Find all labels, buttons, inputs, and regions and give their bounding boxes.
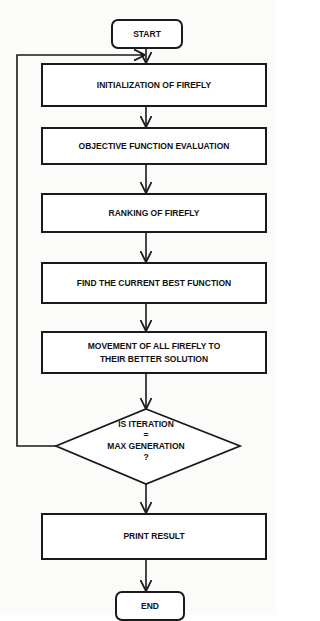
start-label: START <box>133 28 161 41</box>
start-terminal: START <box>111 19 183 49</box>
decision-line-1: IS ITERATION <box>86 419 206 430</box>
step-initialization: INITIALIZATION OF FIREFLY <box>41 63 267 107</box>
step-objective-evaluation: OBJECTIVE FUNCTION EVALUATION <box>41 127 267 165</box>
end-label: END <box>141 600 159 613</box>
step-print-result: PRINT RESULT <box>41 513 267 560</box>
decision-line-4: ? <box>86 452 206 463</box>
step-label: INITIALIZATION OF FIREFLY <box>97 79 211 92</box>
step-movement: MOVEMENT OF ALL FIREFLY TO THEIR BETTER … <box>41 331 267 374</box>
step-label: MOVEMENT OF ALL FIREFLY TO THEIR BETTER … <box>83 340 225 366</box>
step-ranking: RANKING OF FIREFLY <box>41 193 267 233</box>
step-label: PRINT RESULT <box>123 530 184 543</box>
step-label: OBJECTIVE FUNCTION EVALUATION <box>79 140 230 153</box>
decision-text: IS ITERATION = MAX GENERATION ? <box>86 419 206 463</box>
decision-line-3: MAX GENERATION <box>86 441 206 452</box>
step-find-best: FIND THE CURRENT BEST FUNCTION <box>41 262 267 304</box>
step-label: FIND THE CURRENT BEST FUNCTION <box>77 277 231 290</box>
step-label: RANKING OF FIREFLY <box>109 207 200 220</box>
decision-line-2: = <box>86 430 206 441</box>
end-terminal: END <box>115 591 185 621</box>
